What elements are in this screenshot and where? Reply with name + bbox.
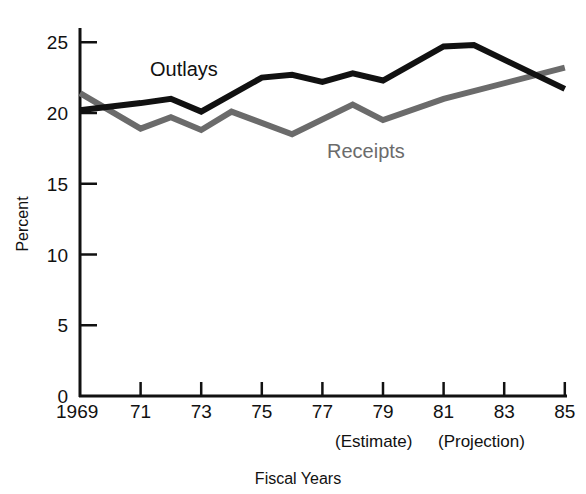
x-tick-label: 77 [312,401,333,422]
x-tick-label: 75 [251,401,272,422]
x-tick-label: 79 [372,401,393,422]
x-axis-title: Fiscal Years [255,470,341,487]
y-tick-label: 25 [47,32,68,53]
outlays-label: Outlays [150,58,218,80]
receipts-label: Receipts [327,140,405,162]
x-tick-label: 81 [433,401,454,422]
x-tick-label: 73 [191,401,212,422]
x-tick-label: 85 [554,401,575,422]
x-tick-label: 1969 [56,401,98,422]
y-axis-ticks: 0510152025 [47,32,97,407]
projection-note: (Projection) [438,432,525,451]
y-tick-label: 5 [57,315,68,336]
y-tick-label: 10 [47,245,68,266]
y-axis-title: Percent [14,196,31,252]
y-tick-label: 20 [47,103,68,124]
x-axis-ticks: 19697173757779818385 [56,382,575,422]
x-tick-label: 71 [130,401,151,422]
estimate-note: (Estimate) [335,432,412,451]
y-tick-label: 15 [47,174,68,195]
x-tick-label: 83 [494,401,515,422]
line-chart: 0510152025 19697173757779818385 Outlays … [0,0,586,494]
